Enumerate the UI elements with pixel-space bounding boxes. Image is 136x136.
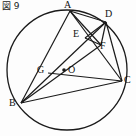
segment-AC: [70, 11, 122, 81]
point-label-C: C: [124, 75, 131, 85]
point-label-A: A: [64, 0, 71, 10]
segment-DC: [106, 22, 122, 81]
point-label-O: O: [68, 65, 75, 75]
point-label-B: B: [9, 98, 16, 108]
figure-container: 図 9 A B C D E F G O: [0, 0, 136, 136]
segment-GC: [48, 73, 122, 81]
point-label-E: E: [73, 29, 79, 39]
point-label-F: F: [100, 41, 106, 51]
center-dot-icon: [62, 68, 66, 72]
segment-BD: [21, 22, 106, 103]
point-label-D: D: [105, 9, 112, 19]
point-label-G: G: [37, 65, 44, 75]
